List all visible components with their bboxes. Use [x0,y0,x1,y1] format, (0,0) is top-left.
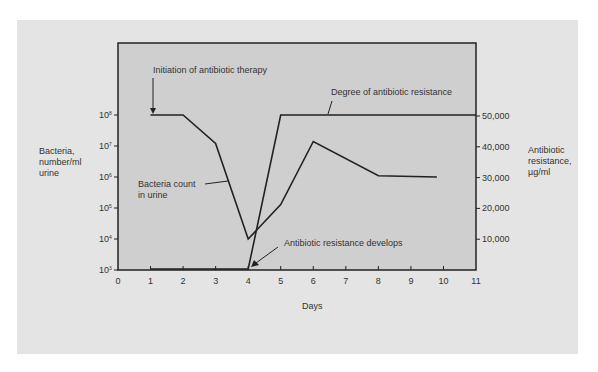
y2-tick-label: 20,000 [482,203,510,213]
y-tick-label: 105 [99,203,112,213]
y-tick-label: 104 [99,234,112,244]
y-tick-label: 108 [99,110,112,120]
y-axis-ticks: 108107106105104103 [99,110,118,275]
y-tick-label: 107 [99,141,112,151]
x-tick-label: 0 [115,276,120,286]
x-tick-label: 9 [408,276,413,286]
x-tick-label: 8 [376,276,381,286]
chart-canvas: 01234567891011 108107106105104103 50,000… [0,0,598,372]
x-tick-label: 1 [148,276,153,286]
x-axis-title: Days [302,301,323,312]
plot-area [118,43,476,270]
y2-tick-label: 10,000 [482,234,510,244]
y-tick-label: 103 [99,265,112,275]
develops-annotation: Antibiotic resistance develops [284,238,403,249]
y2-tick-label: 50,000 [482,111,510,121]
degree-annotation: Degree of antibiotic resistance [331,87,452,98]
x-tick-label: 5 [278,276,283,286]
y2-axis-ticks: 50,00040,00030,00020,00010,000 [476,111,510,244]
bacteria-annotation: Bacteria count in urine [138,179,196,201]
x-tick-label: 3 [213,276,218,286]
y2-tick-label: 40,000 [482,142,510,152]
y2-tick-label: 30,000 [482,173,510,183]
initiation-annotation: Initiation of antibiotic therapy [153,65,267,76]
x-tick-label: 2 [181,276,186,286]
left-axis-label: Bacteria, number/ml urine [39,146,82,179]
x-tick-label: 4 [246,276,251,286]
y-tick-label: 106 [99,172,112,182]
x-tick-label: 6 [311,276,316,286]
x-tick-label: 11 [471,276,480,286]
right-axis-label: Antibiotic resistance, µg/ml [528,145,572,178]
x-tick-label: 10 [438,276,448,286]
x-tick-label: 7 [343,276,348,286]
